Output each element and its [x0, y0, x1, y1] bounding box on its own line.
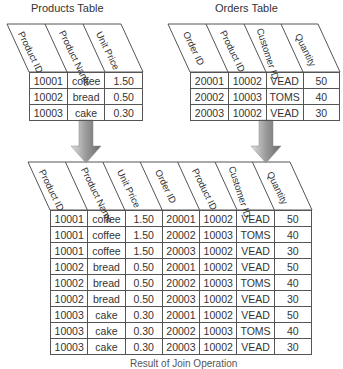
cell: cake [88, 323, 125, 339]
cell: 10002 [200, 243, 237, 259]
cell: VEAD [237, 291, 274, 307]
cell: 40 [274, 275, 311, 291]
cell: 10003 [30, 105, 68, 121]
cell: 50 [274, 259, 311, 275]
cell: 20002 [191, 89, 229, 105]
cell: 0.50 [125, 259, 162, 275]
cell: 50 [303, 73, 339, 89]
cell: 10002 [200, 259, 237, 275]
cell: 10003 [200, 227, 237, 243]
cell: 0.30 [125, 307, 162, 323]
cell: bread [88, 259, 125, 275]
cell: VEAD [237, 243, 274, 259]
cell: 0.50 [105, 89, 143, 105]
table-row: 20002 10003 TOMS 40 [191, 89, 340, 105]
cell: TOMS [237, 227, 274, 243]
table-row: 10002 bread 0.50 [30, 89, 143, 105]
cell: cake [88, 307, 125, 323]
cell: 10002 [200, 291, 237, 307]
cell: 10003 [51, 307, 88, 323]
table-row: 10002 bread 0.50 20003 10002 VEAD 30 [51, 291, 312, 307]
cell: 30 [274, 339, 311, 355]
cell: 10003 [200, 275, 237, 291]
cell: 10001 [51, 227, 88, 243]
cell: 0.30 [125, 339, 162, 355]
table-row: 10003 cake 0.30 20002 10003 TOMS 40 [51, 323, 312, 339]
cell: 10001 [51, 243, 88, 259]
cell: coffee [67, 73, 105, 89]
cell: 10002 [51, 291, 88, 307]
table-row: 10001 coffee 1.50 20001 10002 VEAD 50 [51, 211, 312, 227]
cell: 0.50 [125, 291, 162, 307]
cell: 20003 [162, 339, 199, 355]
table-row: 10002 bread 0.50 20002 10003 TOMS 40 [51, 275, 312, 291]
cell: VEAD [237, 339, 274, 355]
table-row: 10002 bread 0.50 20001 10002 VEAD 50 [51, 259, 312, 275]
cell: coffee [88, 211, 125, 227]
cell: bread [88, 291, 125, 307]
cell: TOMS [237, 275, 274, 291]
left-down-arrow-icon [71, 120, 101, 163]
cell: 20003 [191, 105, 229, 121]
cell: 40 [274, 227, 311, 243]
orders-table: 20001 10002 VEAD 50 20002 10003 TOMS 40 … [190, 72, 340, 121]
cell: 20002 [162, 275, 199, 291]
cell: TOMS [237, 323, 274, 339]
cell: 20003 [162, 291, 199, 307]
cell: 20001 [162, 211, 199, 227]
cell: VEAD [237, 307, 274, 323]
cell: 20002 [162, 227, 199, 243]
cell: VEAD [266, 105, 303, 121]
cell: bread [88, 275, 125, 291]
table-row: 10003 cake 0.30 20001 10002 VEAD 50 [51, 307, 312, 323]
cell: 10002 [200, 307, 237, 323]
table-row: 10001 coffee 1.50 20002 10003 TOMS 40 [51, 227, 312, 243]
cell: 20001 [162, 259, 199, 275]
cell: 10001 [51, 211, 88, 227]
cell: 20001 [162, 307, 199, 323]
cell: 10002 [30, 89, 68, 105]
cell: 0.30 [105, 105, 143, 121]
cell: coffee [88, 227, 125, 243]
cell: 20002 [162, 323, 199, 339]
cell: 10003 [51, 339, 88, 355]
cell: 50 [274, 211, 311, 227]
cell: 10002 [200, 339, 237, 355]
table-row: 10003 cake 0.30 [30, 105, 143, 121]
cell: 10002 [51, 275, 88, 291]
cell: 0.50 [125, 275, 162, 291]
cell: VEAD [237, 211, 274, 227]
cell: cake [88, 339, 125, 355]
cell: 40 [303, 89, 339, 105]
cell: 30 [274, 291, 311, 307]
cell: 1.50 [125, 243, 162, 259]
cell: VEAD [237, 259, 274, 275]
cell: 30 [303, 105, 339, 121]
cell: 10002 [228, 73, 266, 89]
cell: 10002 [200, 211, 237, 227]
table-row: 20001 10002 VEAD 50 [191, 73, 340, 89]
cell: 10003 [228, 89, 266, 105]
cell: 1.50 [125, 211, 162, 227]
cell: 10003 [51, 323, 88, 339]
cell: TOMS [266, 89, 303, 105]
table-row: 20003 10002 VEAD 30 [191, 105, 340, 121]
result-table: 10001 coffee 1.50 20001 10002 VEAD 50 10… [50, 210, 312, 355]
cell: 20003 [162, 243, 199, 259]
right-down-arrow-icon [251, 120, 281, 163]
cell: 20001 [191, 73, 229, 89]
cell: 10001 [30, 73, 68, 89]
cell: 10003 [200, 323, 237, 339]
products-table: 10001 coffee 1.50 10002 bread 0.50 10003… [29, 72, 143, 121]
table-row: 10001 coffee 1.50 20003 10002 VEAD 30 [51, 243, 312, 259]
cell: 1.50 [125, 227, 162, 243]
cell: coffee [88, 243, 125, 259]
cell: 1.50 [105, 73, 143, 89]
cell: 40 [274, 323, 311, 339]
table-row: 10003 cake 0.30 20003 10002 VEAD 30 [51, 339, 312, 355]
cell: 50 [274, 307, 311, 323]
result-caption: Result of Join Operation [130, 358, 237, 369]
cell: 0.30 [125, 323, 162, 339]
cell: 10002 [51, 259, 88, 275]
cell: VEAD [266, 73, 303, 89]
